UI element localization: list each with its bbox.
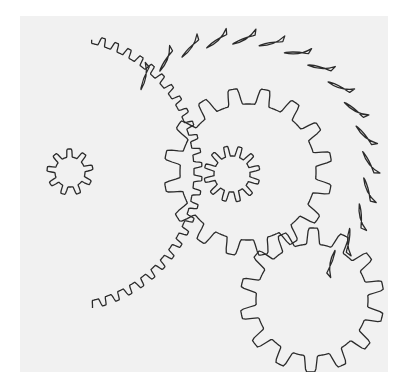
gear-diagram: Gear train diagram (0, 0, 407, 388)
